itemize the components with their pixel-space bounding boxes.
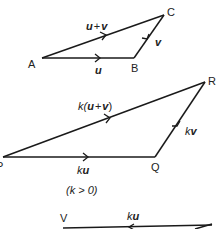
point-v-label: V	[60, 212, 68, 224]
vector-addition-diagram: A B C u v u+v P Q R ku kv k(u+v) (k	[0, 0, 224, 229]
k-condition-label: (k > 0)	[66, 184, 98, 196]
triangle-abc: A B C u v u+v	[28, 6, 175, 76]
point-c-label: C	[167, 6, 175, 18]
edge-bottom-label: ku	[127, 210, 140, 222]
point-p-label: P	[0, 160, 3, 172]
triangle-pqr: P Q R ku kv k(u+v) (k > 0)	[0, 75, 216, 196]
edge-pr	[3, 82, 205, 157]
arrow-head-icon	[142, 34, 149, 39]
edge-ab-label: u	[95, 64, 102, 76]
point-a-label: A	[28, 58, 36, 70]
point-r-label: R	[208, 75, 216, 87]
partial-bottom-figure: V ku	[60, 210, 212, 229]
point-q-label: Q	[151, 161, 160, 173]
edge-pr-label: k(u+v)	[78, 100, 112, 112]
edge-pq-label: ku	[77, 164, 90, 176]
edge-ac-label: u+v	[86, 20, 108, 32]
edge-bc-label: v	[155, 36, 162, 48]
edge-qr	[155, 82, 205, 157]
edge-qr-label: kv	[185, 125, 198, 137]
point-b-label: B	[131, 62, 138, 74]
edge-bottom	[63, 225, 212, 228]
